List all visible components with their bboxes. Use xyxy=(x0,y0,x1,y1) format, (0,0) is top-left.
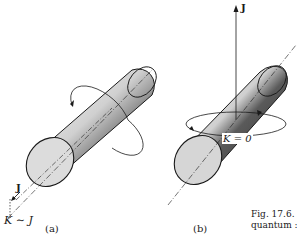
panel-a-projection-label: K ∼ J xyxy=(4,214,33,227)
panel-a-cylinder xyxy=(8,61,162,218)
panel-a-caption: (a) xyxy=(45,223,59,234)
figure-caption-line1: Fig. 17.6. xyxy=(251,209,295,219)
figure-canvas: J K ∼ J (a) J K = 0 (b) Fig. 17.6. quant… xyxy=(0,0,297,237)
panel-b-cylinder xyxy=(164,5,296,205)
panel-b-projection-label: K = 0 xyxy=(222,133,253,144)
panel-b-caption: (b) xyxy=(193,223,207,234)
figure-drawing xyxy=(0,0,297,237)
figure-caption-line2: quantum : xyxy=(251,220,297,230)
panel-b-vector-label: J xyxy=(241,2,246,13)
panel-a-vector-label: J xyxy=(16,182,21,193)
